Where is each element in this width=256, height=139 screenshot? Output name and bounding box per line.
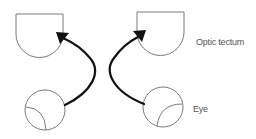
right-eye-lens-arc (157, 104, 182, 126)
optic-tectum-label: Optic tectum (196, 37, 244, 47)
right-eye-shape (143, 87, 183, 127)
right-arrowhead-icon (133, 30, 146, 42)
eye-label: Eye (193, 104, 208, 114)
left-eye-lens-arc (26, 107, 46, 130)
right-projection-arrow (110, 37, 144, 104)
eye-to-tectum-diagram (0, 0, 256, 139)
left-arrowhead-icon (56, 32, 69, 44)
left-optic-tectum-shape (16, 14, 63, 57)
left-projection-arrow (63, 38, 95, 105)
left-eye-shape (25, 90, 65, 130)
